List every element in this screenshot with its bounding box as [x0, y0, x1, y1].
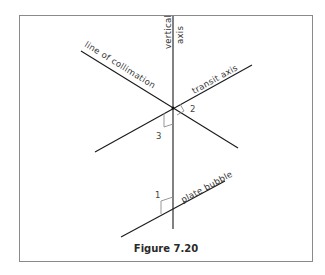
transit-axis-label: transit axis	[190, 62, 240, 96]
vertical-axis-label-line2: axis	[175, 25, 185, 44]
angle-label-3: 3	[156, 131, 161, 141]
angle-label-1: 1	[155, 190, 160, 200]
diagram-canvas: vertical axis line of collimation transi…	[0, 0, 325, 275]
angle-label-2: 2	[190, 104, 195, 114]
figure-caption: Figure 7.20	[19, 243, 313, 254]
line-of-collimation-label: line of collimation	[83, 39, 157, 90]
vertical-axis-label-line1: vertical	[163, 15, 173, 49]
right-angle-marker-1	[161, 197, 173, 214]
plate-bubble-label: plate bubble	[179, 169, 234, 205]
right-angle-marker-3	[164, 113, 173, 127]
intersection-point	[172, 107, 175, 110]
